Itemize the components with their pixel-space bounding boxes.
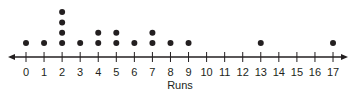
data-dot (23, 40, 29, 46)
left-arrow-icon (8, 54, 15, 60)
dot-plot: 01234567891011121314151617 Runs (0, 0, 359, 99)
tick-label: 6 (131, 66, 137, 78)
tick-labels: 01234567891011121314151617 (23, 66, 339, 78)
tick-label: 9 (185, 66, 191, 78)
tick-label: 7 (149, 66, 155, 78)
x-axis-title: Runs (167, 79, 193, 91)
data-dot (59, 9, 65, 15)
tick-label: 8 (167, 66, 173, 78)
data-dot (41, 40, 47, 46)
tick-label: 17 (327, 66, 339, 78)
tick-label: 14 (273, 66, 285, 78)
data-dot (149, 40, 155, 46)
data-dot (113, 40, 119, 46)
data-dot (59, 30, 65, 36)
data-dot (149, 30, 155, 36)
tick-label: 11 (219, 66, 230, 78)
tick-label: 4 (95, 66, 101, 78)
data-dot (113, 30, 119, 36)
tick-label: 10 (200, 66, 212, 78)
tick-label: 12 (237, 66, 249, 78)
tick-label: 15 (291, 66, 303, 78)
tick-label: 1 (41, 66, 47, 78)
data-dot (59, 40, 65, 46)
tick-label: 16 (309, 66, 321, 78)
data-dot (95, 40, 101, 46)
data-dot (95, 30, 101, 36)
tick-label: 0 (23, 66, 29, 78)
data-dots (23, 9, 336, 46)
tick-label: 13 (255, 66, 267, 78)
tick-label: 5 (113, 66, 119, 78)
tick-label: 2 (59, 66, 65, 78)
data-dot (258, 40, 264, 46)
data-dot (131, 40, 137, 46)
data-dot (59, 19, 65, 25)
data-dot (77, 40, 83, 46)
right-arrow-icon (341, 54, 348, 60)
tick-label: 3 (77, 66, 83, 78)
data-dot (330, 40, 336, 46)
data-dot (167, 40, 173, 46)
data-dot (186, 40, 192, 46)
